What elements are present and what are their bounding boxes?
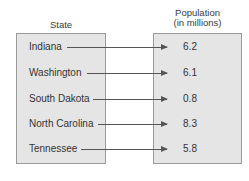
population-value: 6.2 — [180, 41, 200, 53]
population-value: 5.8 — [180, 143, 200, 155]
arrow-icon — [93, 99, 167, 100]
mapping-row: Indiana 6.2 — [0, 41, 249, 53]
state-label: North Carolina — [29, 118, 93, 130]
state-header: State — [16, 20, 106, 30]
population-value: 6.1 — [180, 67, 200, 79]
mapping-row: South Dakota 0.8 — [0, 93, 249, 105]
arrow-icon — [81, 149, 167, 150]
mapping-row: Washington 6.1 — [0, 67, 249, 79]
population-value: 8.3 — [180, 118, 200, 130]
population-header: Population (in millions) — [153, 8, 242, 28]
population-header-line2: (in millions) — [153, 18, 242, 28]
mapping-row: Tennessee 5.8 — [0, 143, 249, 155]
state-label: Indiana — [29, 41, 62, 53]
state-label: South Dakota — [29, 93, 90, 105]
arrow-icon — [98, 124, 167, 125]
arrow-icon — [87, 73, 167, 74]
arrow-icon — [67, 47, 167, 48]
state-label: Washington — [29, 67, 81, 79]
mapping-row: North Carolina 8.3 — [0, 118, 249, 130]
population-value: 0.8 — [180, 93, 200, 105]
state-label: Tennessee — [29, 143, 77, 155]
